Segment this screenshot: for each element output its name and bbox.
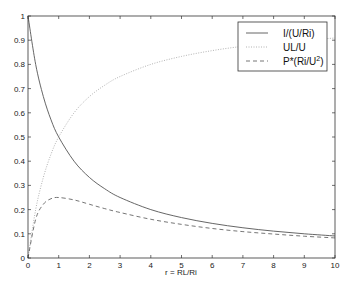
y-tick-label: 0.7 <box>14 85 26 94</box>
x-tick-label: 1 <box>56 261 61 270</box>
x-tick-label: 10 <box>331 261 340 270</box>
x-tick-label: 2 <box>87 261 92 270</box>
legend: I/(U/Ri) UL/U P*(Ri/U2) <box>238 22 327 71</box>
y-tick-label: 0.9 <box>14 36 26 45</box>
y-tick-label: 0.5 <box>14 133 26 142</box>
y-tick-label: 1 <box>21 12 26 21</box>
y-tick-label: 0.2 <box>14 206 26 215</box>
y-tick-label: 0 <box>21 254 26 263</box>
y-tick-label: 0.3 <box>14 181 26 190</box>
y-tick-label: 0.6 <box>14 109 26 118</box>
x-tick-label: 9 <box>302 261 307 270</box>
x-tick-label: 7 <box>241 261 246 270</box>
x-tick-label: 4 <box>149 261 154 270</box>
y-tick-label: 0.8 <box>14 60 26 69</box>
x-tick-label: 8 <box>271 261 276 270</box>
x-tick-label: 3 <box>118 261 123 270</box>
y-tick-label: 0.1 <box>14 230 26 239</box>
y-tick-label: 0.4 <box>14 157 26 166</box>
x-tick-label: 0 <box>26 261 31 270</box>
x-axis-label: r = RL/Ri <box>165 268 197 277</box>
x-tick-label: 6 <box>210 261 215 270</box>
legend-label-current: I/(U/Ri) <box>283 28 315 39</box>
line-chart: 012345678910 00.10.20.30.40.50.60.70.80.… <box>0 0 351 287</box>
legend-label-voltage: UL/U <box>283 42 306 53</box>
